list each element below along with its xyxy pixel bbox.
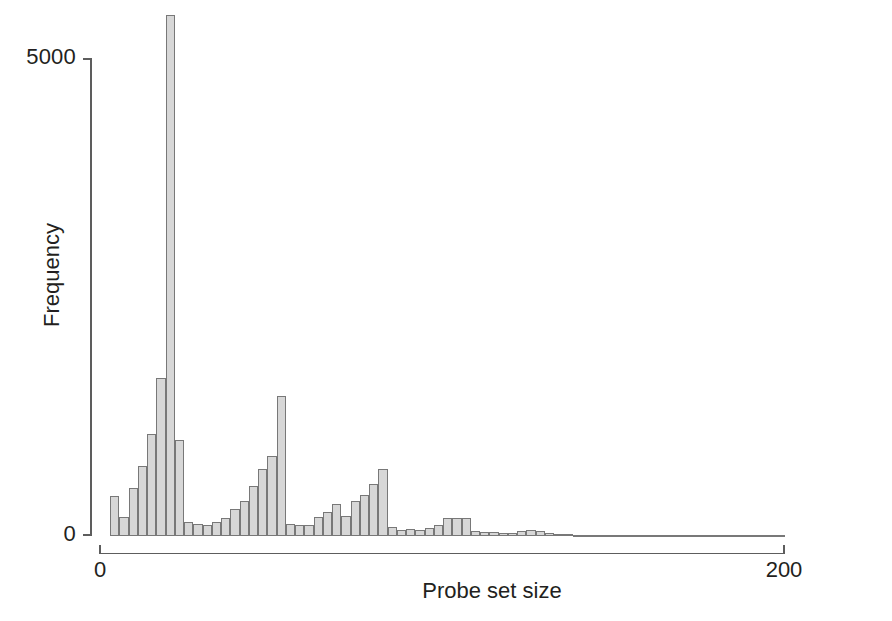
histogram-bar [425,528,434,536]
x-axis-title: Probe set size [342,578,642,604]
histogram-bar [637,535,646,537]
histogram-figure: 5000 0 Frequency 0 200 Probe set size [0,0,892,621]
histogram-bar [739,535,748,537]
histogram-bar [563,534,572,536]
histogram-bar [286,524,295,536]
histogram-bar [443,518,452,536]
y-axis-title: Frequency [39,200,65,350]
x-axis-tick-200 [783,545,785,553]
histogram-bar [203,525,212,536]
histogram-bar [480,532,489,536]
cropped-title-text [300,0,600,2]
histogram-bar [341,516,350,536]
histogram-bar [702,535,711,537]
plot-area [0,0,892,621]
histogram-bar [184,522,193,536]
histogram-bar [573,535,582,537]
histogram-bar [526,530,535,536]
histogram-bar [240,501,249,536]
histogram-bar [249,486,258,536]
histogram-bar [471,531,480,536]
x-axis-tick-label-200: 200 [752,557,816,583]
histogram-bar [656,535,665,537]
histogram-bar [193,524,202,536]
histogram-bar [434,525,443,536]
histogram-bar [295,525,304,536]
histogram-bar [767,535,776,537]
histogram-bar [230,509,239,536]
histogram-bar [517,531,526,536]
histogram-bar [360,495,369,536]
histogram-bar [693,535,702,537]
histogram-bar [119,517,128,536]
histogram-bar [415,530,424,536]
histogram-bar [277,396,286,536]
histogram-bar [166,15,175,536]
histogram-bar [378,469,387,536]
histogram-bar [591,535,600,537]
y-axis-tick-bottom [83,534,90,536]
histogram-bar [536,531,545,536]
histogram-bar [748,535,757,537]
histogram-bar [221,518,230,536]
histogram-bar [406,529,415,536]
histogram-bar [258,469,267,536]
histogram-bar [757,535,766,537]
histogram-bar [499,533,508,536]
histogram-bar [711,535,720,537]
histogram-bar [175,440,184,536]
histogram-bar [600,535,609,537]
y-axis-tick-label-5000: 5000 [0,44,76,70]
histogram-bar [582,535,591,537]
y-axis-line [90,58,92,536]
histogram-bar [665,535,674,537]
histogram-bar [683,535,692,537]
histogram-bar [267,456,276,536]
histogram-bar [332,504,341,536]
histogram-bar [619,535,628,537]
histogram-bar [156,378,165,536]
histogram-bar [110,496,119,536]
histogram-bar [489,532,498,536]
histogram-bar [397,530,406,536]
histogram-bar [462,518,471,536]
histogram-bar [545,533,554,536]
histogram-bar [730,535,739,537]
histogram-bar [388,527,397,536]
histogram-bar [452,518,461,536]
histogram-bar [646,535,655,537]
histogram-bar [554,534,563,536]
histogram-bar [314,517,323,536]
histogram-bar [508,533,517,536]
histogram-bar [674,535,683,537]
histogram-bar [720,535,729,537]
y-axis-tick-label-0: 0 [0,521,76,547]
x-axis-tick-0 [99,545,101,553]
histogram-bar [212,522,221,536]
histogram-bar [351,501,360,536]
histogram-bar [369,484,378,536]
histogram-bar [138,466,147,536]
histogram-bar [610,535,619,537]
histogram-bar [147,434,156,536]
histogram-bar [628,535,637,537]
x-axis-line [99,553,785,555]
x-axis-tick-label-0: 0 [84,557,116,583]
y-axis-tick-top [83,58,90,60]
histogram-bar [304,525,313,536]
histogram-bar [323,512,332,536]
histogram-bar [129,488,138,536]
histogram-bar [776,535,785,537]
